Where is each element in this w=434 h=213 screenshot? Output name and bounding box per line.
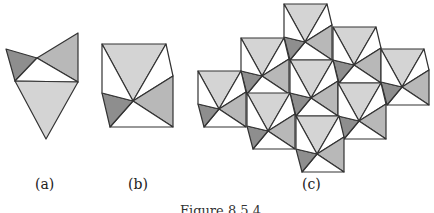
tiling-tile — [284, 4, 332, 60]
label-c: (c) — [302, 176, 321, 192]
panel-c-tiling — [198, 4, 429, 172]
panel-a-light-triangle — [15, 81, 78, 139]
label-b: (b) — [128, 176, 148, 192]
tiling-tile — [338, 83, 386, 139]
tiling-tile — [381, 49, 429, 105]
tiling-tile — [296, 116, 344, 172]
tiling-tile — [333, 27, 381, 83]
tiling-tile — [241, 38, 289, 94]
label-a: (a) — [35, 176, 54, 192]
tiling-tile — [290, 60, 338, 116]
figure-canvas — [0, 0, 434, 213]
panel-a-pieces — [6, 33, 78, 139]
figure-caption: Figure 8.5.4 — [180, 203, 261, 213]
tiling-tile — [198, 71, 246, 127]
tiling-tile — [247, 93, 295, 149]
panel-b-tile — [102, 44, 173, 127]
